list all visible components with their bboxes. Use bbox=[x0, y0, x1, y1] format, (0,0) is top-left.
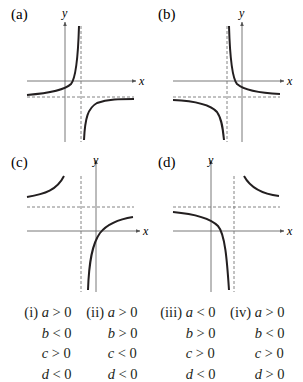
value: 0 bbox=[130, 343, 137, 364]
value: 0 bbox=[208, 302, 215, 323]
panel-a: (a) x y bbox=[11, 6, 145, 142]
panel-label-d: (d) bbox=[158, 154, 176, 171]
variable: a bbox=[108, 302, 115, 323]
condition-label: (iii) bbox=[152, 302, 182, 323]
relation: > bbox=[53, 302, 61, 323]
condition-label: (iv) bbox=[225, 302, 251, 323]
relation: < bbox=[197, 364, 205, 382]
curve-right-branch bbox=[84, 99, 134, 140]
condition-label: (i) bbox=[12, 302, 38, 323]
value: 0 bbox=[64, 323, 71, 344]
x-axis-label: x bbox=[286, 224, 293, 238]
y-axis-label: y bbox=[207, 153, 214, 167]
condition-label: (ii) bbox=[78, 302, 104, 323]
relation: > bbox=[265, 343, 273, 364]
variable: d bbox=[42, 364, 49, 382]
value: 0 bbox=[64, 302, 71, 323]
relation: > bbox=[197, 323, 205, 344]
variable: a bbox=[255, 302, 262, 323]
y-axis-label: y bbox=[92, 153, 99, 167]
value: 0 bbox=[130, 364, 137, 382]
y-axis-label: y bbox=[61, 6, 68, 20]
curve-right-branch bbox=[244, 176, 279, 196]
variable: d bbox=[186, 364, 193, 382]
panel-b: (b) x y bbox=[158, 6, 293, 142]
value: 0 bbox=[208, 323, 215, 344]
relation: > bbox=[266, 302, 274, 323]
curve-left-branch bbox=[173, 100, 224, 140]
relation: > bbox=[119, 302, 127, 323]
panel-label-a: (a) bbox=[11, 6, 28, 23]
y-axis-label: y bbox=[238, 6, 245, 20]
relation: < bbox=[53, 323, 61, 344]
variable: c bbox=[108, 343, 114, 364]
relation: < bbox=[197, 302, 205, 323]
relation: > bbox=[196, 343, 204, 364]
relation: > bbox=[52, 343, 60, 364]
panel-c: (c) x y bbox=[11, 153, 149, 292]
x-axis-label: x bbox=[138, 74, 145, 88]
relation: > bbox=[119, 323, 127, 344]
panel-d: (d) x y bbox=[158, 153, 293, 292]
variable: a bbox=[186, 302, 193, 323]
panel-label-b: (b) bbox=[158, 6, 176, 23]
variable: c bbox=[42, 343, 48, 364]
value: 0 bbox=[130, 323, 137, 344]
relation: < bbox=[266, 323, 274, 344]
variable: c bbox=[186, 343, 192, 364]
value: 0 bbox=[277, 364, 284, 382]
condition-set-ii: (ii) a > 0 b > 0 c < 0 d < 0 bbox=[78, 302, 138, 382]
relation: < bbox=[53, 364, 61, 382]
curve-left-branch bbox=[173, 212, 229, 290]
x-axis-label: x bbox=[286, 74, 293, 88]
graphs-figure: (a) x y (b) x y (c) x y (d) x bbox=[0, 0, 303, 300]
variable: b bbox=[108, 323, 115, 344]
condition-set-iv: (iv) a > 0 b < 0 c > 0 d > 0 bbox=[225, 302, 285, 382]
curve-right-branch bbox=[229, 26, 280, 94]
relation: > bbox=[266, 364, 274, 382]
variable: c bbox=[255, 343, 261, 364]
value: 0 bbox=[64, 364, 71, 382]
value: 0 bbox=[64, 343, 71, 364]
variable: b bbox=[186, 323, 193, 344]
variable: b bbox=[42, 323, 49, 344]
condition-set-i: (i) a > 0 b < 0 c > 0 d < 0 bbox=[12, 302, 72, 382]
relation: < bbox=[119, 364, 127, 382]
relation: < bbox=[118, 343, 126, 364]
curve-right-branch bbox=[88, 217, 133, 290]
variable: d bbox=[108, 364, 115, 382]
value: 0 bbox=[208, 364, 215, 382]
value: 0 bbox=[277, 323, 284, 344]
variable: b bbox=[255, 323, 262, 344]
condition-set-iii: (iii) a < 0 b > 0 c > 0 d < 0 bbox=[152, 302, 216, 382]
curve-left-branch bbox=[27, 176, 64, 197]
variable: a bbox=[42, 302, 49, 323]
panel-label-c: (c) bbox=[11, 154, 28, 171]
x-axis-label: x bbox=[142, 224, 149, 238]
value: 0 bbox=[208, 343, 215, 364]
value: 0 bbox=[130, 302, 137, 323]
value: 0 bbox=[277, 343, 284, 364]
variable: d bbox=[255, 364, 262, 382]
curve-left-branch bbox=[27, 26, 79, 95]
value: 0 bbox=[277, 302, 284, 323]
